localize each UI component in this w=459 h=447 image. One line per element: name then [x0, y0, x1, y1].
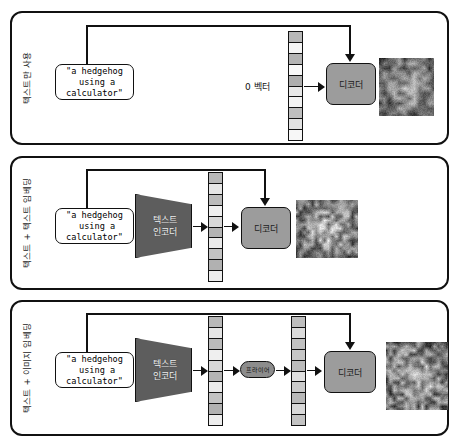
- latent-vector-cell: [209, 260, 222, 271]
- latent-vector-cell: [209, 372, 222, 383]
- latent-vector-cell: [209, 271, 222, 281]
- latent-vector-cell: [209, 217, 222, 228]
- latent-vector-cell: [209, 206, 222, 217]
- vector-to-decoder-line: [304, 86, 319, 88]
- latent-vector-cell: [209, 404, 222, 415]
- text-encoder-label: 텍스트 인코더: [153, 214, 177, 238]
- prior-box: 프라이어: [240, 361, 275, 378]
- text-encoder-box: 텍스트 인코더: [135, 338, 192, 402]
- prompt-to-decoder-line-horizontal: [86, 169, 266, 171]
- panel-side-label: 텍스트만 사용: [20, 52, 32, 104]
- latent-vector-cell: [209, 415, 222, 425]
- prompt-to-decoder-arrowhead: [345, 54, 355, 62]
- panel-side-label: 텍스트 + 텍스트 임베딩: [20, 178, 32, 268]
- prompt-bubble: "a hedgehog using a calculator": [55, 352, 134, 388]
- latent-vector-cell: [292, 415, 305, 425]
- latent-vector-cell: [209, 328, 222, 339]
- output-image-canvas: [379, 58, 434, 116]
- latent-vector-cell: [289, 87, 302, 98]
- decoder-box: 디코더: [326, 63, 376, 105]
- latent-vector: [288, 31, 303, 141]
- output-image: [379, 58, 434, 116]
- encoder-to-vector-arrowhead: [201, 222, 208, 232]
- latent-vector-cell: [289, 97, 302, 108]
- latent-vector-cell: [289, 119, 302, 130]
- vector-to-decoder-arrowhead: [318, 82, 325, 92]
- latent-vector-cell: [292, 404, 305, 415]
- prompt-to-decoder-arrowhead: [345, 342, 355, 350]
- latent-vector-cell: [209, 228, 222, 239]
- latent-vector-cell: [289, 65, 302, 76]
- latent-vector-cell: [209, 317, 222, 328]
- latent-vector-cell: [292, 339, 305, 350]
- vector-to-decoder-arrowhead: [232, 222, 239, 232]
- latent-vector-cell: [209, 249, 222, 260]
- output-image-canvas: [386, 342, 448, 410]
- output-image: [386, 342, 448, 410]
- encoder-to-vector-arrowhead: [201, 366, 208, 376]
- prompt-to-decoder-line-vertical-up: [86, 169, 88, 209]
- latent-vector-cell: [292, 328, 305, 339]
- prompt-to-decoder-line-horizontal: [86, 25, 351, 27]
- prompt-to-decoder-line-horizontal: [86, 313, 351, 315]
- prompt-to-decoder-line-vertical-up: [86, 313, 88, 353]
- prompt-bubble: "a hedgehog using a calculator": [55, 64, 134, 100]
- decoder-box: 디코더: [241, 207, 291, 249]
- prompt-bubble: "a hedgehog using a calculator": [55, 208, 134, 244]
- prompt-to-decoder-line-vertical-up: [86, 25, 88, 65]
- prompt-to-decoder-line-vertical-down: [264, 169, 266, 199]
- latent-vector-cell: [289, 130, 302, 140]
- latent-vector-cell: [209, 382, 222, 393]
- prior-to-vector-arrowhead: [284, 366, 291, 376]
- latent-vector-cell: [289, 43, 302, 54]
- latent-vector-text: [208, 316, 223, 426]
- latent-vector-cell: [209, 184, 222, 195]
- latent-vector-cell: [209, 238, 222, 249]
- latent-vector-cell: [289, 108, 302, 119]
- latent-vector-cell: [209, 350, 222, 361]
- decoder-box: 디코더: [324, 351, 376, 393]
- diagram-canvas: 텍스트만 사용 "a hedgehog using a calculator" …: [0, 0, 459, 447]
- latent-vector-cell: [289, 32, 302, 43]
- output-image-canvas: [296, 200, 358, 258]
- latent-vector-cell: [289, 54, 302, 65]
- latent-vector-cell: [292, 372, 305, 383]
- latent-vector-cell: [209, 339, 222, 350]
- output-image: [296, 200, 358, 258]
- latent-vector-cell: [209, 361, 222, 372]
- zero-vector-label: 0 벡터: [245, 80, 270, 93]
- prompt-to-decoder-line-vertical-down: [349, 313, 351, 343]
- latent-vector-cell: [292, 382, 305, 393]
- text-encoder-label: 텍스트 인코더: [153, 358, 177, 382]
- panel-side-label: 텍스트 + 이미지 임베딩: [20, 323, 32, 413]
- latent-vector-cell: [292, 317, 305, 328]
- latent-vector-cell: [292, 393, 305, 404]
- latent-vector-cell: [292, 361, 305, 372]
- latent-vector-cell: [292, 350, 305, 361]
- latent-vector-image: [291, 316, 306, 426]
- prompt-to-decoder-line-vertical-down: [349, 25, 351, 55]
- latent-vector-cell: [209, 393, 222, 404]
- text-encoder-box: 텍스트 인코더: [135, 194, 192, 258]
- prompt-to-decoder-arrowhead: [260, 198, 270, 206]
- latent-vector-cell: [209, 173, 222, 184]
- vector-to-decoder-arrowhead: [315, 366, 322, 376]
- latent-vector: [208, 172, 223, 282]
- latent-vector-cell: [209, 195, 222, 206]
- vector-to-prior-arrowhead: [233, 366, 240, 376]
- latent-vector-cell: [289, 76, 302, 87]
